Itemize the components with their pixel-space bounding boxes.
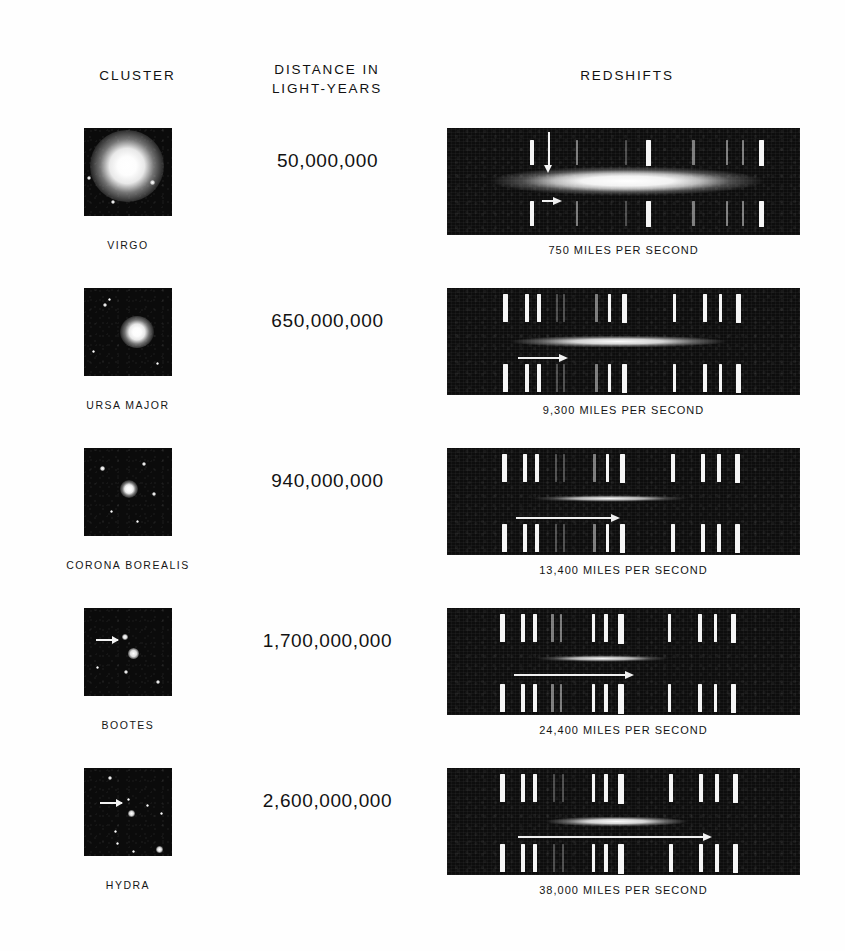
star-point [150,180,155,185]
velocity-caption-corona-borealis: 13,400 MILES PER SECOND [447,564,800,576]
pointer-arrow-hydra [100,802,122,804]
comparison-line [714,684,718,712]
comparison-line [726,201,729,226]
comparison-line [646,140,651,166]
comparison-line [592,684,596,712]
comparison-line [551,614,554,642]
comparison-line [533,774,537,802]
galaxy-blob [120,316,154,348]
redshift-arrow-virgo [548,132,550,166]
comparison-line [533,684,537,712]
velocity-caption-virgo: 750 MILES PER SECOND [447,244,800,256]
comparison-line [606,524,610,552]
star-point [108,298,111,301]
star-point [146,804,149,807]
redshift-distance-figure: CLUSTER DISTANCE IN LIGHT-YEARS REDSHIFT… [0,0,845,951]
comparison-line [733,774,738,803]
cluster-label-bootes: BOOTES [8,719,248,731]
comparison-line [500,684,505,712]
comparison-line [671,454,675,482]
comparison-line [592,774,596,802]
comparison-line [555,454,558,482]
redshift-shift-arrow-bootes [514,674,632,676]
spectrum-plate-virgo [447,128,800,235]
comparison-line [595,294,598,322]
velocity-caption-bootes: 24,400 MILES PER SECOND [447,724,800,736]
column-header-cluster: CLUSTER [35,66,240,85]
cluster-photo-bootes [84,608,172,696]
comparison-line [731,684,736,713]
comparison-line [759,201,764,227]
redshift-shift-arrow-ursa-major [518,357,566,359]
comparison-line [537,294,541,322]
comparison-line [604,684,608,712]
comparison-line [622,294,627,323]
comparison-line [719,294,723,322]
comparison-line [622,364,627,393]
comparison-line [553,844,555,872]
comparison-line [525,294,529,322]
comparison-line [502,524,507,552]
comparison-line [742,140,745,165]
comparison-line [502,454,507,482]
redshift-shift-arrow-virgo [542,200,560,202]
column-header-redshifts: REDSHIFTS [452,66,802,85]
comparison-line [715,844,719,872]
comparison-line [646,201,651,227]
comparison-line [698,614,702,642]
cluster-label-virgo: VIRGO [8,239,248,251]
comparison-line [735,524,740,553]
star-point [122,634,128,640]
comparison-line [553,774,555,802]
comparison-line [625,140,627,165]
star-point [92,350,95,353]
comparison-line [576,140,579,165]
comparison-line [521,774,525,802]
comparison-line [503,364,508,392]
comparison-line [699,844,703,872]
comparison-line [618,774,624,804]
comparison-line [717,524,721,552]
cluster-label-ursa-major: URSA MAJOR [8,399,248,411]
comparison-line [736,294,741,323]
comparison-line [692,201,695,226]
star-point [116,842,119,845]
comparison-line [714,614,718,642]
comparison-line [592,844,596,872]
star-point [114,830,117,833]
comparison-line [717,454,721,482]
comparison-line [530,140,534,165]
star-point [108,776,112,780]
comparison-line [618,844,624,874]
velocity-caption-hydra: 38,000 MILES PER SECOND [447,884,800,896]
galaxy-spectrum-streak [468,164,786,198]
galaxy-blob [90,130,164,202]
column-header-distance-line1: DISTANCE IN [222,60,432,79]
star-point [111,200,115,204]
star-point [127,798,130,801]
comparison-line [736,364,741,393]
spectrum-plate-hydra [447,768,800,875]
cluster-label-corona-borealis: CORONA BOREALIS [8,559,248,571]
spectrum-plate-corona-borealis [447,448,800,555]
comparison-line [535,524,539,552]
column-header-distance: DISTANCE IN LIGHT-YEARS [222,60,432,98]
comparison-line [625,201,627,226]
cluster-photo-corona-borealis [84,448,172,536]
comparison-line [555,524,558,552]
comparison-line [604,774,608,802]
comparison-line [701,454,705,482]
galaxy-blob [120,480,138,498]
redshift-shift-arrow-corona-borealis [516,517,618,519]
comparison-line [673,364,677,392]
comparison-line [500,844,505,872]
star-point [156,680,160,684]
comparison-line [735,454,740,483]
comparison-line [608,294,612,322]
distance-value-corona-borealis: 940,000,000 [215,470,440,492]
comparison-line [726,140,729,165]
comparison-line [715,774,719,802]
comparison-line [562,844,564,872]
comparison-line [668,614,672,642]
comparison-line [703,294,707,322]
